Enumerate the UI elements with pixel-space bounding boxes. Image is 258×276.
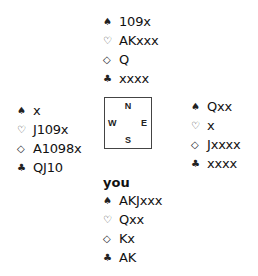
east-hearts: ♡ x: [191, 116, 241, 135]
north-clubs-cards: xxxx: [119, 69, 149, 88]
compass-box: N W E S: [104, 97, 152, 149]
south-hearts: ♡ Qxx: [103, 210, 162, 229]
club-icon: ♣: [103, 69, 119, 88]
west-diamonds: ◇ A1098x: [17, 139, 81, 158]
south-diamonds: ◇ Kx: [103, 229, 162, 248]
south-clubs-cards: AK: [119, 248, 136, 267]
heart-icon: ♡: [17, 120, 33, 139]
south-spades: ♠ AKJxxx: [103, 191, 162, 210]
heart-icon: ♡: [191, 116, 207, 135]
east-diamonds-cards: Jxxxx: [207, 135, 241, 154]
compass-east: E: [141, 118, 147, 128]
east-clubs: ♣ xxxx: [191, 154, 241, 173]
north-hand: ♠ 109x ♡ AKxxx ◇ Q ♣ xxxx: [103, 12, 159, 88]
north-hearts: ♡ AKxxx: [103, 31, 159, 50]
south-hand: you ♠ AKJxxx ♡ Qxx ◇ Kx ♣ AK: [103, 174, 162, 267]
club-icon: ♣: [103, 248, 119, 267]
heart-icon: ♡: [103, 210, 119, 229]
north-diamonds: ◇ Q: [103, 50, 159, 69]
west-hearts-cards: J109x: [33, 120, 68, 139]
west-clubs: ♣ QJ10: [17, 158, 81, 177]
compass-west: W: [108, 118, 117, 128]
south-hearts-cards: Qxx: [119, 210, 144, 229]
north-diamonds-cards: Q: [119, 50, 129, 69]
west-hearts: ♡ J109x: [17, 120, 81, 139]
east-hand: ♠ Qxx ♡ x ◇ Jxxxx ♣ xxxx: [191, 97, 241, 173]
club-icon: ♣: [17, 158, 33, 177]
west-spades-cards: x: [33, 101, 41, 120]
north-clubs: ♣ xxxx: [103, 69, 159, 88]
heart-icon: ♡: [103, 31, 119, 50]
east-diamonds: ◇ Jxxxx: [191, 135, 241, 154]
south-label: you: [103, 174, 162, 191]
compass-south: S: [105, 135, 151, 145]
east-clubs-cards: xxxx: [207, 154, 237, 173]
diamond-icon: ◇: [17, 139, 33, 158]
diamond-icon: ◇: [191, 135, 207, 154]
north-hearts-cards: AKxxx: [119, 31, 159, 50]
spade-icon: ♠: [191, 97, 207, 116]
club-icon: ♣: [191, 154, 207, 173]
east-spades: ♠ Qxx: [191, 97, 241, 116]
south-diamonds-cards: Kx: [119, 229, 135, 248]
north-spades-cards: 109x: [119, 12, 151, 31]
south-spades-cards: AKJxxx: [119, 191, 162, 210]
diamond-icon: ◇: [103, 229, 119, 248]
spade-icon: ♠: [103, 191, 119, 210]
east-spades-cards: Qxx: [207, 97, 232, 116]
compass-north: N: [105, 101, 151, 111]
spade-icon: ♠: [103, 12, 119, 31]
east-hearts-cards: x: [207, 116, 215, 135]
south-clubs: ♣ AK: [103, 248, 162, 267]
west-hand: ♠ x ♡ J109x ◇ A1098x ♣ QJ10: [17, 101, 81, 177]
diamond-icon: ◇: [103, 50, 119, 69]
west-spades: ♠ x: [17, 101, 81, 120]
spade-icon: ♠: [17, 101, 33, 120]
west-clubs-cards: QJ10: [33, 158, 63, 177]
west-diamonds-cards: A1098x: [33, 139, 81, 158]
north-spades: ♠ 109x: [103, 12, 159, 31]
